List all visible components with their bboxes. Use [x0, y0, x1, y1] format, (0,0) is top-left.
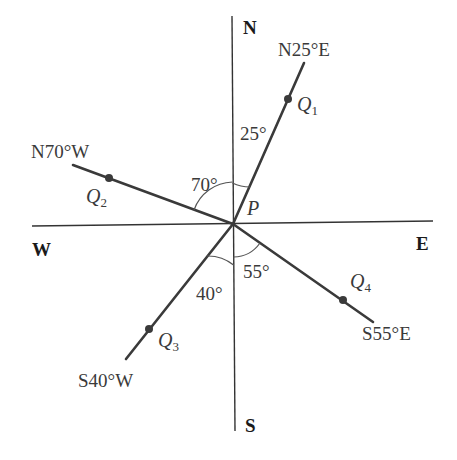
- point-label-q2: Q2: [86, 185, 107, 210]
- east-label: E: [416, 233, 429, 254]
- bearing-label-q4: S55°E: [362, 323, 411, 344]
- compass-diagram: N S E W N25°E N70°W S40°W S55°E 25° 70° …: [0, 0, 457, 460]
- point-q4: [339, 296, 347, 304]
- point-label-q1: Q1: [297, 93, 318, 118]
- point-label-q3: Q3: [158, 329, 179, 354]
- angle-label-25: 25°: [240, 123, 267, 144]
- south-label: S: [245, 415, 256, 436]
- point-q3: [145, 325, 153, 333]
- angle-arc-25: [232, 183, 250, 187]
- bearing-label-q2: N70°W: [31, 141, 89, 162]
- angle-arc-40: [207, 256, 234, 265]
- bearing-label-q1: N25°E: [278, 39, 330, 60]
- angle-arc-55: [234, 243, 260, 257]
- west-label: W: [32, 239, 51, 260]
- angle-label-40: 40°: [196, 283, 223, 304]
- point-q1: [284, 95, 292, 103]
- point-label-q4: Q4: [350, 270, 371, 295]
- angle-label-70: 70°: [191, 174, 218, 195]
- point-q2: [105, 174, 113, 182]
- north-label: N: [243, 17, 257, 38]
- center-label-p: P: [246, 197, 259, 219]
- angle-label-55: 55°: [243, 261, 270, 282]
- bearing-label-q3: S40°W: [78, 370, 133, 391]
